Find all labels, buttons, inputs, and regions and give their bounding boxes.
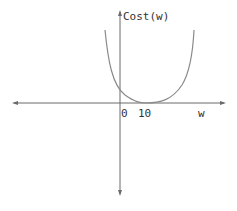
w-axis-left-arrow-icon (12, 101, 18, 105)
tick-label-0: 0 (121, 107, 128, 120)
w-axis-label: w (198, 107, 205, 120)
cost-axis-label: Cost(w) (123, 10, 169, 23)
cost-axis-down-arrow-icon (118, 190, 122, 196)
cost-curve (105, 30, 194, 103)
tick-label-10: 10 (138, 107, 151, 120)
cost-axis-up-arrow-icon (118, 10, 122, 16)
cost-function-diagram: Cost(w) 0 10 w (0, 0, 237, 211)
w-axis-right-arrow-icon (220, 101, 226, 105)
